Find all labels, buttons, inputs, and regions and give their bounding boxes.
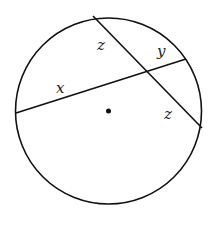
label-y: y [156,42,166,60]
label-z-upper: z [96,36,105,54]
center-point [106,109,111,114]
circle-chord-diagram: z y x z [0,0,217,226]
label-x: x [56,79,65,97]
label-z-lower: z [163,105,172,123]
